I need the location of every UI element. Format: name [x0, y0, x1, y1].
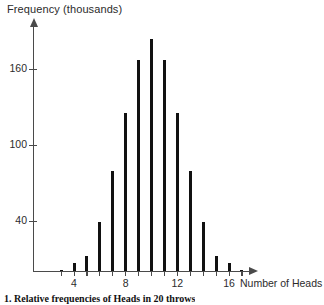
figure-caption: 1. Relative frequencies of Heads in 20 t…	[4, 293, 195, 305]
bar-4	[73, 263, 76, 271]
x-tick-4	[74, 271, 75, 276]
y-tick-160	[29, 69, 37, 70]
x-tick-10	[151, 271, 152, 276]
bar-16	[228, 263, 231, 271]
bar-7	[111, 171, 114, 271]
y-tick-label-160: 160	[0, 62, 27, 74]
x-tick-8	[125, 271, 126, 276]
bar-11	[163, 60, 166, 271]
bar-6	[98, 222, 101, 271]
bar-15	[215, 256, 218, 271]
x-tick-13	[190, 271, 191, 276]
x-tick-label-12: 12	[171, 277, 183, 289]
x-axis-label: Number of Heads	[240, 277, 322, 289]
x-tick-16	[229, 271, 230, 276]
bar-5	[85, 256, 88, 271]
y-axis-arrow-icon	[30, 18, 38, 27]
bar-8	[124, 113, 127, 271]
x-tick-14	[203, 271, 204, 276]
x-tick-15	[216, 271, 217, 276]
x-tick-label-4: 4	[71, 277, 77, 289]
x-tick-label-16: 16	[223, 277, 235, 289]
y-axis-line	[33, 26, 34, 272]
x-tick-11	[164, 271, 165, 276]
bar-12	[176, 113, 179, 271]
y-tick-40	[29, 221, 37, 222]
x-tick-3	[61, 271, 62, 276]
bar-9	[137, 60, 140, 271]
y-tick-100	[29, 145, 37, 146]
figure-coin-toss-frequency: Frequency (thousands) 40100160 481216 Nu…	[0, 0, 324, 305]
x-tick-9	[138, 271, 139, 276]
x-tick-6	[99, 271, 100, 276]
bar-10	[150, 39, 153, 271]
x-tick-17	[241, 271, 242, 276]
bar-13	[189, 171, 192, 271]
bar-3	[60, 270, 63, 271]
x-axis-line	[33, 271, 253, 272]
x-tick-7	[112, 271, 113, 276]
x-tick-5	[86, 271, 87, 276]
y-tick-label-100: 100	[0, 138, 27, 150]
y-tick-label-40: 40	[0, 214, 27, 226]
bar-17	[240, 270, 243, 271]
bar-14	[202, 222, 205, 271]
x-axis-arrow-icon	[249, 267, 258, 275]
x-tick-12	[177, 271, 178, 276]
plot-area: 40100160 481216	[0, 0, 324, 305]
x-tick-label-8: 8	[123, 277, 129, 289]
